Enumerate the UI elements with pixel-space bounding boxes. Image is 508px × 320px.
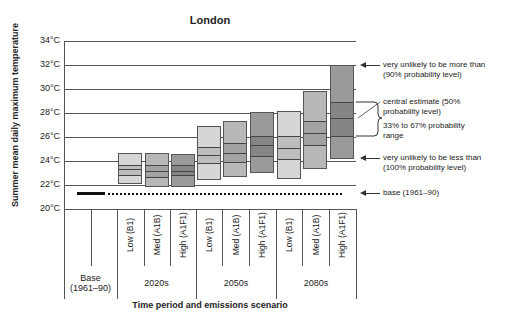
scenario-label: Low (B1) xyxy=(125,205,135,265)
y-axis-line xyxy=(64,41,65,209)
x-divider xyxy=(302,209,303,266)
annotation-range: 33% to 67% probability range xyxy=(383,121,508,141)
arrow-line xyxy=(366,193,380,194)
x-axis-label: Time period and emissions scenario xyxy=(64,300,356,310)
bar-2020s-high xyxy=(171,154,195,188)
probability-range-band xyxy=(251,137,273,157)
range-line xyxy=(278,159,300,160)
scenario-label: High (A1F1) xyxy=(337,205,347,265)
scenario-label: Med (A1B) xyxy=(152,205,162,265)
central-estimate-line xyxy=(304,133,326,134)
range-line xyxy=(304,145,326,146)
range-line xyxy=(198,163,220,164)
range-line xyxy=(172,165,194,166)
bar-2050s-high xyxy=(250,112,274,173)
x-divider xyxy=(91,209,92,266)
central-estimate-line xyxy=(198,155,220,156)
bar-2020s-med xyxy=(145,153,169,188)
central-estimate-line xyxy=(331,118,353,119)
range-line xyxy=(119,175,141,176)
central-estimate-line xyxy=(172,171,194,172)
gridline xyxy=(64,65,356,66)
scenario-label: Low (B1) xyxy=(204,205,214,265)
x-divider xyxy=(222,209,223,266)
central-estimate-line xyxy=(278,148,300,149)
x-divider xyxy=(329,209,330,266)
scenario-label: High (A1F1) xyxy=(178,205,188,265)
y-tick: 22°C xyxy=(22,179,60,189)
arrow-left-icon xyxy=(360,62,366,68)
base-solid-line xyxy=(77,192,105,195)
range-line xyxy=(146,165,168,166)
arrow-left-icon xyxy=(360,190,366,196)
gridline xyxy=(64,185,356,186)
range-line xyxy=(198,147,220,148)
probability-range-band xyxy=(304,122,326,146)
gridline xyxy=(64,89,356,90)
probability-range-band xyxy=(224,144,246,163)
x-divider xyxy=(170,209,171,266)
range-line xyxy=(224,162,246,163)
y-tick: 26°C xyxy=(22,131,60,141)
range-line xyxy=(331,136,353,137)
range-line xyxy=(278,136,300,137)
central-estimate-line xyxy=(119,169,141,170)
chart-title: London xyxy=(64,14,356,26)
scenario-label: Med (A1B) xyxy=(311,205,321,265)
range-line xyxy=(146,177,168,178)
bar-2080s-high xyxy=(330,65,354,159)
bar-2080s-med xyxy=(303,91,327,169)
annotation-base: base (1961–90) xyxy=(383,188,508,198)
period-label-2050s: 2050s xyxy=(196,278,276,288)
range-line xyxy=(172,175,194,176)
annotation-central: central estimate (50% probability level) xyxy=(383,97,508,117)
annotation-upper: very unlikely to be more than (90% proba… xyxy=(383,60,508,80)
central-estimate-line xyxy=(251,145,273,146)
y-tick: 30°C xyxy=(22,83,60,93)
central-estimate-line xyxy=(224,153,246,154)
scenario-label: High (A1F1) xyxy=(257,205,267,265)
bar-2080s-low xyxy=(277,111,301,179)
y-tick: 28°C xyxy=(22,107,60,117)
bar-2020s-low xyxy=(118,153,142,184)
y-tick: 34°C xyxy=(22,35,60,45)
arrow-line xyxy=(366,65,380,66)
range-line xyxy=(251,156,273,157)
period-label-2080s: 2080s xyxy=(276,278,356,288)
x-divider xyxy=(356,209,357,299)
y-tick: 32°C xyxy=(22,59,60,69)
range-line xyxy=(224,143,246,144)
y-tick: 20°C xyxy=(22,203,60,213)
scenario-label: Med (A1B) xyxy=(231,205,241,265)
range-line xyxy=(119,165,141,166)
range-line xyxy=(304,121,326,122)
period-label-2020s: 2020s xyxy=(117,278,196,288)
annotation-lower: very unlikely to be less than (100% prob… xyxy=(383,153,508,173)
brace-icon xyxy=(356,100,386,140)
gridline xyxy=(64,41,356,42)
x-divider xyxy=(144,209,145,266)
range-line xyxy=(251,136,273,137)
probability-range-band xyxy=(331,103,353,137)
arrow-line xyxy=(366,158,380,159)
bar-2050s-med xyxy=(223,121,247,176)
range-line xyxy=(331,102,353,103)
bar-2050s-low xyxy=(197,126,221,180)
scenario-label: Low (B1) xyxy=(284,205,294,265)
central-estimate-line xyxy=(146,171,168,172)
base-dotted-line xyxy=(108,193,342,195)
x-divider xyxy=(249,209,250,266)
base-period-label: Base (1961–90) xyxy=(64,273,117,293)
y-axis-label: Summer mean daily maximum temperature xyxy=(10,20,20,210)
arrow-left-icon xyxy=(360,155,366,161)
y-tick: 24°C xyxy=(22,155,60,165)
